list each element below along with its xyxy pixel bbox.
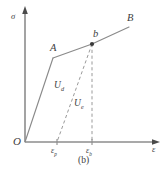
point-label-b: b bbox=[93, 29, 98, 40]
tick-label-eps-p-subscript: p bbox=[54, 151, 57, 157]
tick-label-eps-p: εp bbox=[51, 147, 57, 157]
y-axis-arrowhead bbox=[22, 6, 28, 14]
energy-label-Ud: Ud bbox=[54, 81, 64, 92]
energy-label-Ud-base: U bbox=[54, 80, 61, 90]
unloading-dashed-line bbox=[57, 44, 92, 142]
origin-label: O bbox=[13, 136, 21, 147]
point-marker-b bbox=[90, 42, 94, 46]
y-axis-label: σ bbox=[11, 12, 15, 21]
energy-label-Ue-base: U bbox=[74, 98, 81, 108]
curve-elastic-segment bbox=[25, 58, 53, 142]
energy-label-Ud-subscript: d bbox=[61, 85, 64, 92]
stress-strain-figure: σ ε O A b B Ud Ue εp εb (b) bbox=[0, 0, 166, 171]
figure-caption: (b) bbox=[78, 156, 89, 166]
point-label-A: A bbox=[50, 43, 56, 54]
point-label-B: B bbox=[127, 13, 133, 24]
energy-label-Ue-subscript: e bbox=[81, 103, 84, 110]
x-axis-label: ε bbox=[152, 145, 155, 154]
figure-canvas bbox=[0, 0, 166, 171]
energy-label-Ue: Ue bbox=[74, 99, 84, 110]
tick-label-eps-b-subscript: b bbox=[89, 151, 92, 157]
